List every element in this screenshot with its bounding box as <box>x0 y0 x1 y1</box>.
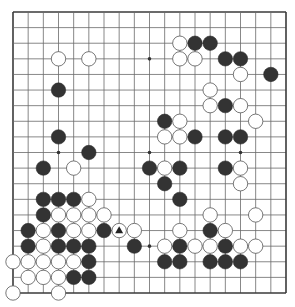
black-stone <box>188 130 202 144</box>
black-stone <box>218 130 232 144</box>
white-stone <box>248 114 262 128</box>
go-board <box>0 0 295 307</box>
black-stone <box>218 255 232 269</box>
black-stone <box>51 83 65 97</box>
black-stone <box>203 255 217 269</box>
black-stone <box>36 192 50 206</box>
black-stone <box>21 223 35 237</box>
black-stone <box>233 130 247 144</box>
white-stone <box>248 208 262 222</box>
white-stone <box>157 130 171 144</box>
black-stone <box>21 239 35 253</box>
black-stone <box>203 223 217 237</box>
white-stone <box>188 52 202 66</box>
black-stone <box>157 114 171 128</box>
star-point <box>148 244 152 248</box>
white-stone <box>173 130 187 144</box>
black-stone <box>82 270 96 284</box>
black-stone <box>218 239 232 253</box>
star-point <box>57 151 61 155</box>
black-stone <box>51 223 65 237</box>
black-stone <box>218 52 232 66</box>
white-stone <box>233 98 247 112</box>
white-stone <box>36 270 50 284</box>
white-stone <box>97 208 111 222</box>
black-stone <box>233 255 247 269</box>
black-stone <box>82 145 96 159</box>
black-stone <box>173 192 187 206</box>
white-stone <box>233 161 247 175</box>
white-stone <box>36 239 50 253</box>
white-stone <box>51 255 65 269</box>
black-stone <box>233 52 247 66</box>
black-stone <box>51 239 65 253</box>
black-stone <box>51 130 65 144</box>
white-stone <box>233 177 247 191</box>
white-stone <box>173 36 187 50</box>
white-stone <box>51 286 65 300</box>
white-stone <box>248 239 262 253</box>
white-stone <box>36 255 50 269</box>
black-stone <box>142 161 156 175</box>
white-stone <box>233 239 247 253</box>
black-stone <box>97 223 111 237</box>
white-stone <box>218 223 232 237</box>
black-stone <box>157 255 171 269</box>
white-stone <box>203 83 217 97</box>
star-point <box>239 151 243 155</box>
white-stone <box>203 239 217 253</box>
white-stone <box>203 208 217 222</box>
white-stone <box>36 223 50 237</box>
black-stone <box>203 36 217 50</box>
white-stone <box>82 223 96 237</box>
white-stone <box>66 208 80 222</box>
white-stone <box>66 255 80 269</box>
black-stone <box>157 177 171 191</box>
white-stone <box>233 67 247 81</box>
star-point <box>148 57 152 61</box>
white-stone <box>82 192 96 206</box>
white-stone <box>21 270 35 284</box>
white-stone <box>82 52 96 66</box>
white-stone <box>66 223 80 237</box>
white-stone <box>157 161 171 175</box>
white-stone <box>82 208 96 222</box>
star-point <box>148 151 152 155</box>
black-stone <box>36 208 50 222</box>
black-stone <box>173 239 187 253</box>
white-stone <box>6 255 20 269</box>
white-stone <box>173 223 187 237</box>
white-stone <box>66 161 80 175</box>
black-stone <box>188 36 202 50</box>
white-stone <box>173 114 187 128</box>
black-stone <box>218 98 232 112</box>
black-stone <box>173 255 187 269</box>
white-stone <box>157 239 171 253</box>
black-stone <box>127 239 141 253</box>
black-stone <box>66 270 80 284</box>
black-stone <box>51 192 65 206</box>
white-stone <box>51 52 65 66</box>
white-stone <box>173 52 187 66</box>
white-stone <box>6 286 20 300</box>
white-stone <box>51 270 65 284</box>
black-stone <box>36 161 50 175</box>
black-stone <box>264 67 278 81</box>
white-stone <box>188 239 202 253</box>
black-stone <box>66 239 80 253</box>
white-stone <box>203 98 217 112</box>
black-stone <box>173 161 187 175</box>
white-stone <box>51 208 65 222</box>
white-stone <box>21 255 35 269</box>
black-stone <box>66 192 80 206</box>
black-stone <box>82 255 96 269</box>
black-stone <box>82 239 96 253</box>
black-stone <box>218 161 232 175</box>
white-stone <box>127 223 141 237</box>
